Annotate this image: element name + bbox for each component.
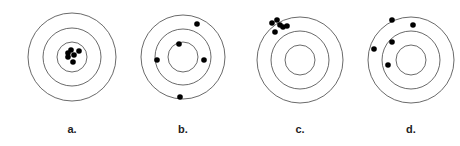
shot-dot [76, 48, 82, 54]
shot-dot [269, 20, 275, 26]
shot-dot [65, 54, 71, 60]
target-b [141, 15, 225, 100]
target-ring [271, 31, 329, 89]
shot-dot [389, 17, 395, 23]
target-ring [28, 13, 116, 101]
target-label-c: c. [295, 123, 304, 135]
shot-dot [274, 17, 280, 23]
shot-dot [284, 23, 290, 29]
shot-dot [177, 94, 183, 100]
target-ring [168, 42, 198, 72]
shot-dot [194, 21, 200, 27]
target-ring [141, 15, 225, 99]
shot-dot [201, 57, 207, 63]
shot-dot [371, 46, 377, 52]
target-ring [368, 17, 454, 103]
shot-dot [410, 22, 416, 28]
target-ring [257, 17, 343, 103]
target-a [28, 13, 116, 101]
target-label-a: a. [67, 123, 76, 135]
target-c [257, 17, 343, 103]
shot-dot [389, 39, 395, 45]
target-ring [43, 28, 101, 86]
target-label-b: b. [178, 123, 188, 135]
target-ring [57, 42, 87, 72]
shot-dot [70, 59, 76, 65]
shot-dot [176, 41, 182, 47]
shot-dot [154, 57, 160, 63]
shot-dot [272, 29, 278, 35]
target-ring [396, 45, 426, 75]
shot-dot [71, 52, 77, 58]
shot-dot [385, 62, 391, 68]
target-label-d: d. [406, 123, 416, 135]
target-ring [285, 45, 315, 75]
target-d [368, 17, 454, 103]
target-ring [155, 29, 211, 85]
shot-dot [277, 22, 283, 28]
shot-dot [68, 47, 74, 53]
